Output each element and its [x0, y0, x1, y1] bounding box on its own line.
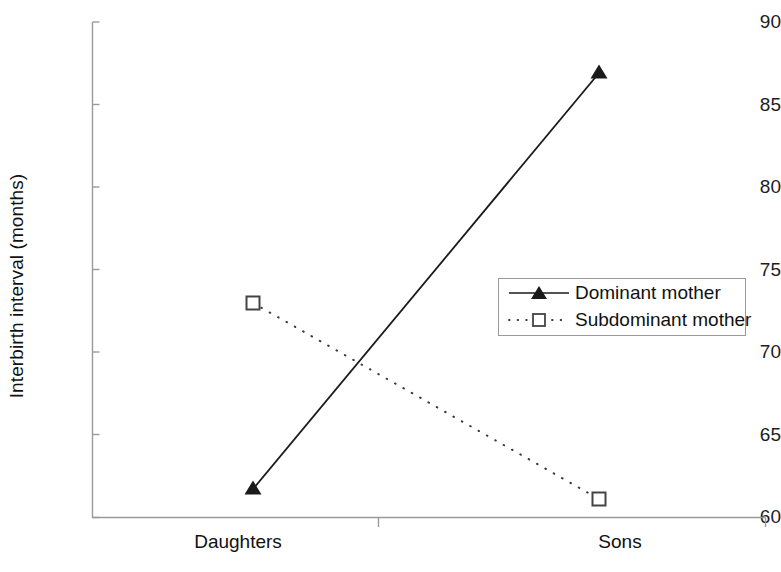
- line-chart: Interbirth interval (months) 90 85 80 75…: [0, 0, 781, 572]
- legend-sample-dominant: [507, 282, 571, 304]
- legend-label-subdominant-mother: Subdominant mother: [571, 309, 751, 331]
- x-axis-ticks: [379, 518, 766, 528]
- y-axis-ticks: [93, 22, 100, 518]
- x-tick-label-daughters: Daughters: [194, 531, 282, 553]
- legend: Dominant mother Subdominant mother: [498, 278, 746, 336]
- filled-triangle-icon: [591, 65, 608, 79]
- legend-label-dominant-mother: Dominant mother: [571, 282, 721, 304]
- legend-sample-subdominant: [507, 309, 571, 331]
- legend-entry-subdominant-mother: Subdominant mother: [499, 306, 745, 333]
- open-square-icon: [593, 493, 606, 506]
- x-tick-label-sons: Sons: [598, 531, 641, 553]
- open-square-icon: [247, 297, 260, 310]
- legend-entry-dominant-mother: Dominant mother: [499, 279, 745, 306]
